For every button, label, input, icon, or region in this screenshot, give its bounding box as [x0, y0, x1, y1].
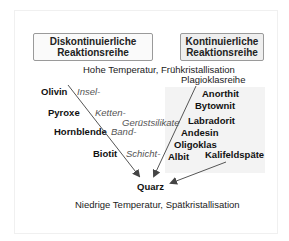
discontinuous-arrow [68, 85, 139, 176]
continuous-arrow [154, 86, 196, 176]
kalifeldspar-arrow [171, 162, 226, 183]
reaction-lines [0, 0, 289, 241]
